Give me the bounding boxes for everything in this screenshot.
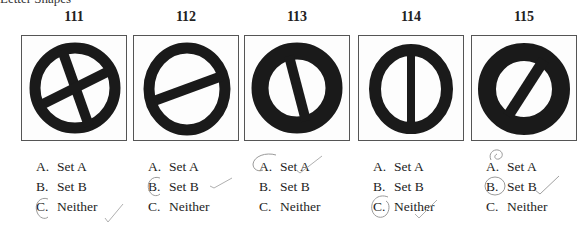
checkmark-icon (208, 176, 234, 190)
answer-options: A.Set A B.Set B C.Neither (148, 157, 209, 217)
answer-options: A.Set A B.Set B C.Neither (373, 157, 434, 217)
question-number: 115 (471, 9, 577, 25)
question-number: 111 (21, 9, 127, 25)
circle-steep-bar-shape-icon (245, 36, 349, 140)
option-c[interactable]: C.Neither (36, 197, 97, 217)
option-a[interactable]: A.Set A (148, 157, 209, 177)
circle-cross-shape-icon (22, 36, 126, 140)
option-b[interactable]: B.Set B (148, 177, 209, 197)
answer-options: A.Set A B.Set B C.Neither (259, 157, 320, 217)
option-b[interactable]: B.Set B (373, 177, 434, 197)
option-a[interactable]: A.Set A (486, 157, 547, 177)
circle-slash-shape-icon (472, 36, 576, 140)
shape-figure-112 (133, 35, 239, 141)
option-b[interactable]: B.Set B (486, 177, 547, 197)
ellipse-bar-shape-icon (134, 36, 238, 140)
answer-options: A.Set A B.Set B C.Neither (36, 157, 97, 217)
question-number: 112 (133, 9, 239, 25)
option-b[interactable]: B.Set B (259, 177, 320, 197)
answer-options: A.Set A B.Set B C.Neither (486, 157, 547, 217)
question-number: 113 (244, 9, 350, 25)
option-a[interactable]: A.Set A (373, 157, 434, 177)
option-a[interactable]: A.Set A (36, 157, 97, 177)
shape-figure-113 (244, 35, 350, 141)
shape-figure-111 (21, 35, 127, 141)
shape-figure-114 (358, 35, 464, 141)
checkmark-icon (103, 200, 125, 224)
section-title-cut-off: Letter Shapes (0, 0, 71, 7)
shape-figure-115 (471, 35, 577, 141)
question-number: 114 (358, 9, 464, 25)
option-a[interactable]: A.Set A (259, 157, 320, 177)
option-c[interactable]: C.Neither (373, 197, 434, 217)
option-c[interactable]: C.Neither (148, 197, 209, 217)
option-c[interactable]: C.Neither (486, 197, 547, 217)
option-b[interactable]: B.Set B (36, 177, 97, 197)
option-c[interactable]: C.Neither (259, 197, 320, 217)
circle-vertical-bar-shape-icon (359, 36, 463, 140)
